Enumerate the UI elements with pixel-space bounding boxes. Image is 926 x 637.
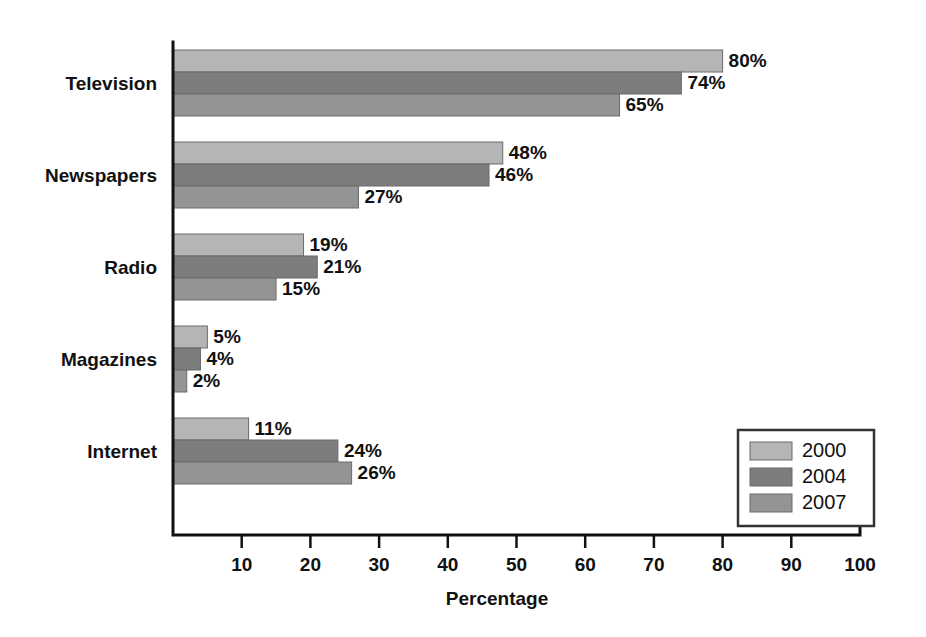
x-axis-title: Percentage [446, 588, 548, 609]
category-label-internet: Internet [87, 441, 157, 462]
value-label: 26% [358, 462, 396, 483]
tick-label: 70 [643, 554, 664, 575]
value-label: 21% [323, 256, 361, 277]
value-label: 19% [310, 234, 348, 255]
value-label: 11% [255, 418, 292, 439]
tick-label: 20 [300, 554, 321, 575]
value-label: 48% [509, 142, 547, 163]
value-label: 65% [626, 94, 664, 115]
bar-television-2007 [173, 94, 620, 116]
legend-swatch-2004 [750, 468, 792, 486]
bar-radio-2000 [173, 234, 304, 256]
value-label: 4% [206, 348, 234, 369]
tick-label: 100 [844, 554, 876, 575]
x-axis-tick-labels: 102030405060708090100 [231, 554, 876, 575]
tick-label: 40 [437, 554, 458, 575]
chart-container: 80%74%65%48%46%27%19%21%15%5%4%2%11%24%2… [0, 0, 926, 637]
value-label: 27% [364, 186, 402, 207]
tick-label: 80 [712, 554, 733, 575]
legend-label-2000: 2000 [802, 439, 847, 461]
legend-swatch-2007 [750, 494, 792, 512]
bar-radio-2004 [173, 256, 317, 278]
legend: 200020042007 [738, 430, 874, 526]
bar-magazines-2000 [173, 326, 207, 348]
axis-ticks [242, 535, 792, 548]
tick-label: 60 [575, 554, 596, 575]
legend-label-2007: 2007 [802, 491, 847, 513]
category-label-newspapers: Newspapers [45, 165, 157, 186]
tick-label: 10 [231, 554, 252, 575]
value-label: 15% [282, 278, 320, 299]
category-label-radio: Radio [104, 257, 157, 278]
bar-internet-2004 [173, 440, 338, 462]
value-label: 46% [495, 164, 533, 185]
bar-television-2004 [173, 72, 681, 94]
value-label: 80% [729, 50, 767, 71]
grouped-bar-chart: 80%74%65%48%46%27%19%21%15%5%4%2%11%24%2… [0, 0, 926, 637]
category-label-magazines: Magazines [61, 349, 157, 370]
bar-newspapers-2007 [173, 186, 358, 208]
category-label-television: Television [65, 73, 157, 94]
value-label: 2% [193, 370, 221, 391]
tick-label: 50 [506, 554, 527, 575]
bar-magazines-2004 [173, 348, 200, 370]
value-label: 74% [687, 72, 725, 93]
bar-television-2000 [173, 50, 723, 72]
bar-internet-2007 [173, 462, 352, 484]
legend-label-2004: 2004 [802, 465, 847, 487]
value-label: 24% [344, 440, 382, 461]
legend-swatch-2000 [750, 442, 792, 460]
bar-newspapers-2004 [173, 164, 489, 186]
bar-magazines-2007 [173, 370, 187, 392]
tick-label: 30 [369, 554, 390, 575]
bar-newspapers-2000 [173, 142, 503, 164]
bar-radio-2007 [173, 278, 276, 300]
value-label: 5% [213, 326, 241, 347]
tick-label: 90 [781, 554, 802, 575]
y-axis-category-labels: TelevisionNewspapersRadioMagazinesIntern… [45, 73, 158, 462]
bar-internet-2000 [173, 418, 249, 440]
